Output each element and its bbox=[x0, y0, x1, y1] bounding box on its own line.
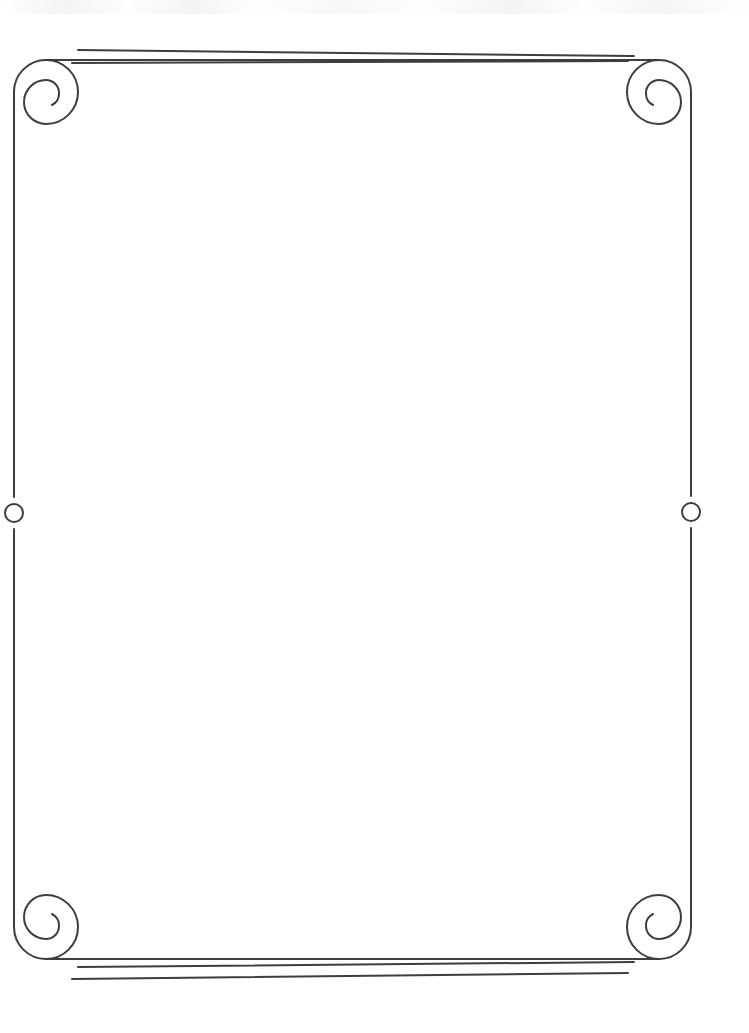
accent-rule-top-outer bbox=[78, 50, 634, 56]
medallion-circle-left bbox=[5, 504, 23, 522]
accent-rule-top-inner bbox=[72, 61, 628, 63]
accent-rule-bottom-outer bbox=[72, 973, 628, 979]
medallion-circle-right bbox=[682, 503, 700, 521]
accent-rule-bottom-inner bbox=[78, 962, 634, 967]
blank-content-area bbox=[30, 80, 675, 940]
page-canvas bbox=[0, 0, 749, 1033]
